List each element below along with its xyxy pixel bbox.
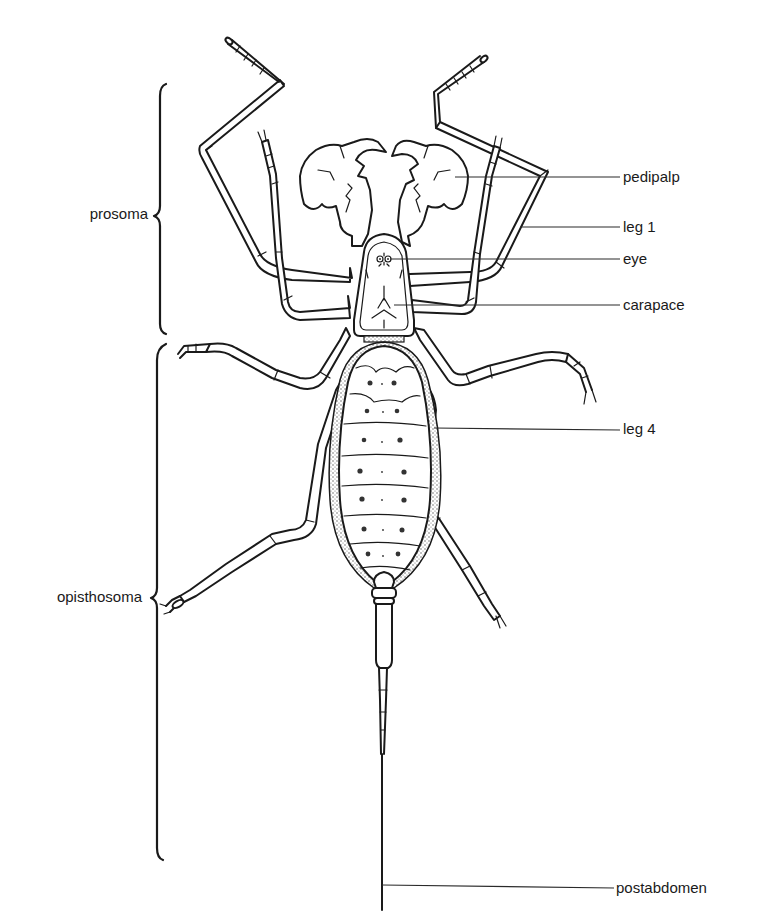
postabdomen (372, 572, 396, 910)
label-eye: eye (623, 250, 647, 268)
prosoma-brace (154, 84, 166, 334)
label-opisthosoma: opisthosoma (30, 588, 142, 606)
label-prosoma: prosoma (78, 205, 148, 223)
leg4-left (160, 376, 352, 614)
leader-leg4 (434, 428, 620, 430)
leg3-left (178, 328, 350, 389)
abdomen (329, 342, 441, 588)
diagram-stage: prosoma opisthosoma pedipalp leg 1 eye c… (0, 0, 764, 911)
carapace (354, 234, 414, 336)
whip-scorpion-illustration (0, 0, 764, 911)
opisthosoma-brace (151, 344, 166, 860)
leg3-right (414, 328, 596, 404)
label-leg4: leg 4 (623, 420, 656, 438)
label-postabdomen: postabdomen (616, 879, 707, 897)
pedipalp-right (392, 141, 468, 246)
leader-postabdomen (382, 885, 614, 888)
label-carapace: carapace (623, 296, 685, 314)
label-leg1: leg 1 (623, 218, 656, 236)
pedicel (364, 336, 404, 342)
label-pedipalp: pedipalp (623, 168, 680, 186)
pedipalp-left (300, 139, 386, 246)
